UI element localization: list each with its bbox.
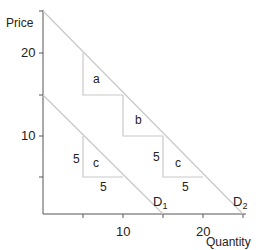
- triangle-a: [83, 53, 123, 95]
- y-ticks: [39, 11, 43, 177]
- triangle-c-lower-label: c: [93, 157, 99, 169]
- triangle-c-upper-label: c: [175, 157, 181, 169]
- x-axis-label: Quantity: [206, 236, 251, 248]
- demand-curve-d2: [43, 11, 243, 214]
- upper-c-width-label: 5: [182, 181, 189, 193]
- d2-label-main: D: [233, 194, 242, 209]
- x-tick-label-10: 10: [116, 226, 130, 238]
- x-tick-label-20: 20: [196, 226, 210, 238]
- triangle-b: [123, 95, 163, 136]
- lower-c-height-label: 5: [73, 153, 80, 165]
- triangle-c-upper: [163, 136, 203, 177]
- triangle-b-label: b: [135, 114, 142, 126]
- triangle-a-label: a: [93, 73, 100, 85]
- lower-c-width-label: 5: [100, 181, 107, 193]
- upper-c-height-label: 5: [153, 151, 160, 163]
- x-ticks: [83, 214, 243, 218]
- demand-diagram: [0, 0, 256, 250]
- demand-curve-d1: [43, 95, 163, 214]
- y-tick-label-10: 10: [21, 130, 35, 142]
- y-tick-label-20: 20: [21, 47, 35, 59]
- d2-label: D2: [233, 196, 247, 212]
- d1-label-sub: 1: [162, 201, 167, 211]
- y-axis-label: Price: [6, 17, 33, 29]
- d2-label-sub: 2: [242, 201, 247, 211]
- d1-label-main: D: [153, 194, 162, 209]
- d1-label: D1: [153, 196, 167, 212]
- triangle-c-lower: [83, 136, 123, 177]
